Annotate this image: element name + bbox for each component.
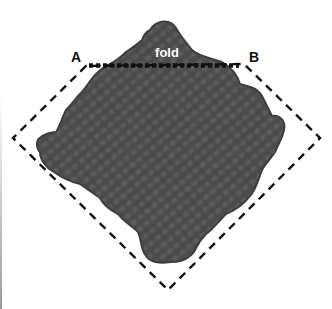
fold-label: fold xyxy=(155,45,179,60)
corner-label-b: B xyxy=(249,49,259,65)
fold-diagram: A B fold xyxy=(0,0,332,309)
corner-label-a: A xyxy=(71,49,81,65)
